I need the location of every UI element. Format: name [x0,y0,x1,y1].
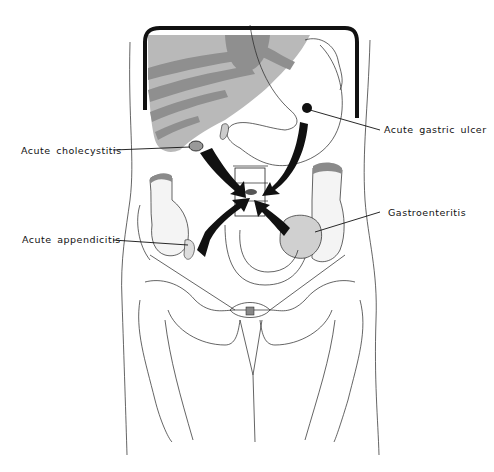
gastric-ulcer-spot [302,103,312,113]
label-acute-cholecystitis: Acute cholecystitis [21,145,122,156]
arrow-from-appendix [197,198,250,257]
arrow-from-intestine [254,200,290,236]
ascending-colon [138,175,195,260]
liver [148,35,310,152]
small-intestine [225,215,322,285]
label-acute-gastric-ulcer: Acute gastric ulcer [384,124,487,135]
label-acute-appendicitis: Acute appendicitis [22,234,121,245]
gallbladder [189,141,203,151]
label-gastroenteritis: Gastroenteritis [388,207,466,218]
arrow-from-gastric-ulcer [262,122,308,196]
abdominal-pain-diagram: Acute gastric ulcer Acute cholecystitis … [0,0,494,472]
